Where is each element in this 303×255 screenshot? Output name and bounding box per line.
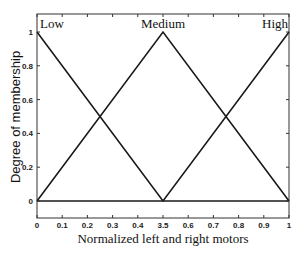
plot-area xyxy=(37,14,289,218)
x-tick-label: 0.3 xyxy=(107,221,119,230)
x-tick-label: 0.2 xyxy=(82,221,94,230)
x-tick-label: 0.6 xyxy=(183,221,195,230)
x-tick-label: 0 xyxy=(35,221,40,230)
x-tick-label: 0.4 xyxy=(132,221,144,230)
label-medium: Medium xyxy=(141,16,185,31)
x-tick-label: 1 xyxy=(287,221,292,230)
y-axis-ticks: 00.20.40.60.81 xyxy=(22,28,289,206)
membership-function-chart: 00.10.20.30.43.50.60.70.80.91 00.20.40.6… xyxy=(0,0,303,255)
label-low: Low xyxy=(40,16,64,31)
x-tick-label: 0.7 xyxy=(208,221,220,230)
x-tick-label: 0.8 xyxy=(233,221,245,230)
series-medium xyxy=(37,32,289,201)
series-low xyxy=(37,32,289,201)
x-axis-label: Normalized left and right motors xyxy=(77,231,248,246)
label-high: High xyxy=(262,16,289,31)
y-tick-label: 0.2 xyxy=(22,163,34,172)
x-axis-ticks: 00.10.20.30.43.50.60.70.80.91 xyxy=(35,14,292,230)
series-high xyxy=(37,32,289,201)
y-tick-label: 0 xyxy=(29,197,34,206)
y-tick-label: 0.6 xyxy=(22,96,34,105)
membership-labels: LowMediumHigh xyxy=(40,16,289,31)
y-tick-label: 1 xyxy=(29,28,34,37)
y-tick-label: 0.8 xyxy=(22,62,34,71)
y-axis-label: Degree of membership xyxy=(8,51,23,183)
x-tick-label: 3.5 xyxy=(157,221,169,230)
y-tick-label: 0.4 xyxy=(22,129,34,138)
axes-box xyxy=(37,14,289,218)
x-tick-label: 0.1 xyxy=(57,221,69,230)
x-tick-label: 0.9 xyxy=(258,221,270,230)
